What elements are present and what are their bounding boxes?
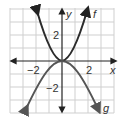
g-label: g <box>103 102 110 114</box>
x-tick-2: 2 <box>86 64 92 76</box>
x-tick-neg2: −2 <box>27 64 40 76</box>
f-label: f <box>93 8 97 20</box>
y-axis-label: y <box>65 8 73 20</box>
x-axis-label: x <box>109 64 116 76</box>
y-tick-neg2: −2 <box>46 82 59 94</box>
graph: y f x g −2 2 2 −2 <box>0 0 119 122</box>
y-tick-2: 2 <box>53 29 59 41</box>
